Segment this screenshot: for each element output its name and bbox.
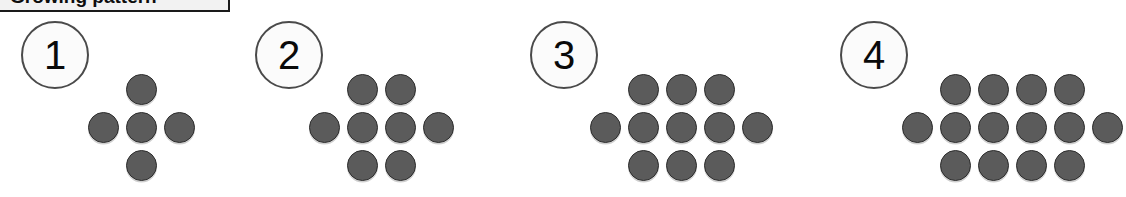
dot-row-top: [898, 70, 1126, 108]
pattern-dot: [940, 112, 971, 143]
dot-row-bottom: [84, 146, 198, 184]
dot-row-bottom: [305, 146, 457, 184]
dot-row-middle: [84, 108, 198, 146]
dot-spacer: [84, 146, 122, 184]
pattern-dot: [1054, 74, 1085, 105]
dot-cell: [381, 108, 419, 146]
pattern-dot: [164, 112, 195, 143]
dot-row-top: [586, 70, 776, 108]
dot-spacer: [305, 70, 343, 108]
pattern-dot: [940, 150, 971, 181]
dot-spacer: [898, 70, 936, 108]
dot-grid: [84, 70, 198, 184]
pattern-dot: [385, 150, 416, 181]
pattern-dot: [1016, 112, 1047, 143]
dot-spacer: [84, 70, 122, 108]
dot-cell: [343, 70, 381, 108]
pattern-dot: [1016, 74, 1047, 105]
pattern-dot: [666, 150, 697, 181]
dot-cell: [1050, 108, 1088, 146]
dot-grid: [305, 70, 457, 184]
dot-cell: [700, 108, 738, 146]
pattern-dot: [628, 112, 659, 143]
pattern-dot: [902, 112, 933, 143]
dot-cell: [122, 146, 160, 184]
pattern-dot: [1016, 150, 1047, 181]
dot-spacer: [586, 146, 624, 184]
dot-cell: [122, 70, 160, 108]
dot-row-bottom: [586, 146, 776, 184]
dot-cell: [662, 146, 700, 184]
pattern-dot: [666, 112, 697, 143]
dot-cell: [662, 70, 700, 108]
pattern-dot: [704, 150, 735, 181]
pattern-dot: [590, 112, 621, 143]
pattern-dot: [347, 112, 378, 143]
pattern-dot: [666, 74, 697, 105]
pattern-dot: [347, 150, 378, 181]
dot-cell: [343, 108, 381, 146]
pattern-dot: [126, 74, 157, 105]
dot-cell: [381, 70, 419, 108]
pattern-dot: [88, 112, 119, 143]
dot-row-middle: [898, 108, 1126, 146]
dot-spacer: [305, 146, 343, 184]
dot-cell: [624, 146, 662, 184]
dot-row-bottom: [898, 146, 1126, 184]
dot-cell: [381, 146, 419, 184]
pattern-dot: [940, 74, 971, 105]
dot-cell: [974, 70, 1012, 108]
dot-row-middle: [586, 108, 776, 146]
dot-cell: [936, 146, 974, 184]
dot-cell: [343, 146, 381, 184]
dot-cell: [974, 146, 1012, 184]
dot-cell: [624, 108, 662, 146]
dot-cell: [738, 108, 776, 146]
pattern-dot: [978, 74, 1009, 105]
dot-cell: [1012, 146, 1050, 184]
dot-cell: [419, 108, 457, 146]
dot-cell: [1088, 108, 1126, 146]
pattern-dot: [628, 150, 659, 181]
dot-spacer: [898, 146, 936, 184]
pattern-dot: [309, 112, 340, 143]
pattern-dot: [978, 150, 1009, 181]
dot-cell: [898, 108, 936, 146]
dot-cell: [936, 108, 974, 146]
pattern-dot: [1054, 112, 1085, 143]
pattern-dot: [126, 150, 157, 181]
pattern-dot: [423, 112, 454, 143]
dot-cell: [936, 70, 974, 108]
pattern-dot: [704, 112, 735, 143]
dot-spacer: [586, 70, 624, 108]
pattern-dot: [742, 112, 773, 143]
caption-text: Growing pattern: [10, 0, 157, 10]
dot-cell: [160, 108, 198, 146]
figure-number-badge: 1: [21, 21, 89, 89]
dot-cell: [122, 108, 160, 146]
dot-cell: [974, 108, 1012, 146]
dot-cell: [662, 108, 700, 146]
pattern-dot: [978, 112, 1009, 143]
dot-cell: [586, 108, 624, 146]
dot-cell: [305, 108, 343, 146]
dot-row-top: [305, 70, 457, 108]
pattern-dot: [704, 74, 735, 105]
dot-row-middle: [305, 108, 457, 146]
dot-cell: [624, 70, 662, 108]
dot-cell: [700, 70, 738, 108]
pattern-dot: [126, 112, 157, 143]
pattern-dot: [385, 112, 416, 143]
caption-box: Growing pattern: [0, 0, 230, 12]
dot-cell: [1050, 70, 1088, 108]
dot-grid: [586, 70, 776, 184]
dot-cell: [1012, 70, 1050, 108]
dot-row-top: [84, 70, 198, 108]
dot-cell: [84, 108, 122, 146]
pattern-dot: [1054, 150, 1085, 181]
dot-cell: [1050, 146, 1088, 184]
dot-cell: [700, 146, 738, 184]
dot-cell: [1012, 108, 1050, 146]
dot-grid: [898, 70, 1126, 184]
pattern-dot: [385, 74, 416, 105]
